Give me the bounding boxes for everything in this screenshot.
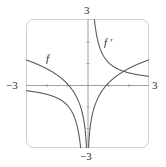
y-max-label: 3: [84, 5, 90, 16]
x-min-label: −3: [6, 80, 18, 91]
f-prime-curve-branch-right: [94, 19, 149, 76]
y-min-label: −3: [80, 151, 92, 162]
f-prime-curve-label: f ′: [104, 37, 112, 48]
f-curve-label: f: [46, 53, 49, 64]
f-prime-curve-branch-left: [26, 91, 81, 148]
f-curve-branch-right: [89, 60, 149, 148]
x-max-label: 3: [152, 80, 158, 91]
chart-canvas: [0, 0, 166, 167]
f-curve-branch-left: [26, 60, 87, 148]
